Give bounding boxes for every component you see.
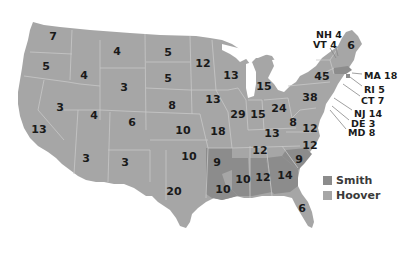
state-label: 13 (264, 128, 279, 139)
state-label: 12 (255, 172, 270, 183)
state-label: 5 (42, 61, 50, 72)
callout-label-ma: MA 18 (364, 71, 397, 81)
state-label: 38 (302, 92, 317, 103)
state-label: 8 (289, 117, 297, 128)
legend-label: Hoover (336, 189, 380, 202)
state-label: 9 (295, 154, 303, 165)
lake-huron-erie (272, 58, 300, 86)
state-label: 10 (235, 174, 250, 185)
state-label: 10 (175, 125, 190, 136)
state-label: 6 (298, 203, 306, 214)
state-label: 13 (223, 70, 238, 81)
callout-label-ri: RI 5 (364, 85, 385, 95)
legend-item-smith: Smith (323, 173, 380, 187)
state-label: 12 (302, 123, 317, 134)
state-label: 6 (128, 117, 136, 128)
legend-label: Smith (336, 174, 372, 187)
state-label: 3 (121, 157, 129, 168)
state-label: 45 (314, 71, 329, 82)
state-label: 3 (120, 82, 128, 93)
state-label: 15 (256, 81, 271, 92)
state-label: 20 (166, 186, 181, 197)
state-label: 12 (195, 58, 210, 69)
state-label: 4 (113, 46, 121, 57)
state-label: 10 (181, 151, 196, 162)
legend-item-hoover: Hoover (323, 188, 380, 202)
state-label: 6 (347, 40, 355, 51)
state-label: 24 (271, 103, 286, 114)
state-label: 3 (56, 102, 64, 113)
state-label: 12 (302, 140, 317, 151)
state-label: 3 (82, 153, 90, 164)
state-label: 12 (252, 145, 267, 156)
state-label: 5 (164, 73, 172, 84)
state-label: 7 (49, 31, 57, 42)
state-label: 29 (230, 109, 245, 120)
hoover-swatch (323, 191, 332, 200)
state-ri (346, 74, 350, 78)
callout-label-md: MD 8 (348, 128, 375, 138)
legend: Smith Hoover (323, 173, 380, 203)
state-label: 13 (31, 124, 46, 135)
state-label: 13 (205, 94, 220, 105)
state-label: 9 (213, 157, 221, 168)
callout-label-vt: VT 4 (313, 40, 337, 50)
callout-label-ct: CT 7 (361, 96, 384, 106)
state-label: 10 (215, 184, 230, 195)
state-label: 18 (210, 126, 225, 137)
smith-swatch (323, 176, 332, 185)
state-label: 5 (164, 47, 172, 58)
state-label: 4 (90, 110, 98, 121)
state-label: 4 (80, 70, 88, 81)
state-label: 8 (168, 100, 176, 111)
state-label: 15 (250, 109, 265, 120)
state-label: 14 (277, 170, 292, 181)
